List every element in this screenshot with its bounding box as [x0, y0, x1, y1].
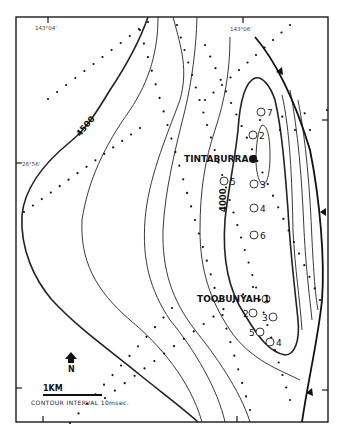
well-marker-t2[interactable] — [249, 309, 257, 317]
shotpoint-dot — [308, 276, 310, 278]
shotpoint-dot — [85, 166, 87, 168]
well-marker-5[interactable] — [220, 177, 228, 185]
shotpoint-dot — [303, 264, 305, 266]
well-marker-7[interactable] — [257, 108, 265, 116]
shotpoint-dot — [255, 54, 257, 56]
well-marker-t5[interactable] — [256, 328, 264, 336]
shotpoint-dot — [309, 129, 311, 131]
scale-bar-line — [43, 394, 102, 396]
shotpoint-dot — [267, 183, 269, 185]
shotpoint-dot — [166, 124, 168, 126]
shotpoint-dot — [229, 199, 231, 201]
shotpoint-dot — [278, 361, 280, 363]
well-label-4: 4 — [260, 204, 266, 214]
shotpoint-dot — [288, 229, 290, 231]
shotpoint-dot — [241, 125, 243, 127]
shotpoint-dot — [281, 116, 283, 118]
shotpoint-dot — [155, 83, 157, 85]
well-label-3: 3 — [260, 180, 266, 190]
well-marker-4[interactable] — [250, 204, 258, 212]
shotpoint-dot — [233, 355, 235, 357]
well-label-t4: 4 — [276, 338, 282, 348]
well-marker-2[interactable] — [249, 131, 257, 139]
shotpoint-dot — [246, 137, 248, 139]
shotpoint-dot — [209, 56, 211, 58]
shotpoint-dot — [225, 186, 227, 188]
shotpoint-dot — [183, 49, 185, 51]
well-group-toobunyah: TOOBUNYAH 1 2 3 5 4 — [197, 294, 282, 348]
well-marker-t3[interactable] — [269, 313, 277, 321]
shotpoint-dot — [206, 260, 208, 262]
shotpoint-dot — [266, 324, 268, 326]
shotpoint-dot — [137, 345, 139, 347]
shotpoint-dot — [147, 56, 149, 58]
well-label-5: 5 — [230, 177, 236, 187]
shotpoint-dot — [220, 79, 222, 81]
shotpoint-dot — [241, 382, 243, 384]
shotpoint-dot — [261, 171, 263, 173]
shotpoint-dot — [236, 224, 238, 226]
shotpoint-dot — [221, 84, 223, 86]
scale-label: 1KM — [43, 384, 63, 393]
contour-label-4500: 4500 — [74, 114, 97, 139]
shotpoint-dot — [74, 77, 76, 79]
shotpoint-dot — [212, 91, 214, 93]
well-marker-6[interactable] — [250, 231, 258, 239]
shotpoint-dot — [272, 39, 274, 41]
well-group-tintaburra: TINTABURRA 1 7 2 5 3 4 6 — [184, 108, 273, 241]
shotpoint-dot — [101, 56, 103, 58]
well-label-t3: 3 — [262, 313, 268, 323]
shotpoint-dot — [298, 253, 300, 255]
shotpoint-dot — [232, 211, 234, 213]
shotpoint-dot — [212, 316, 214, 318]
shotpoint-dot — [47, 98, 49, 100]
shotpoint-dot — [214, 287, 216, 289]
shotpoint-dot — [180, 36, 182, 38]
shotpoint-dot — [304, 112, 306, 114]
shotpoint-dot — [170, 138, 172, 140]
shotpoint-dot — [251, 148, 253, 150]
shotpoint-dot — [32, 204, 34, 206]
shotpoint-dot — [65, 84, 67, 86]
shotpoint-dot — [214, 149, 216, 151]
shotpoint-dot — [280, 31, 282, 33]
shotpoint-dot — [282, 218, 284, 220]
well-label-2: 2 — [259, 131, 265, 141]
shotpoint-dot — [143, 367, 145, 369]
shotpoint-dot — [77, 412, 79, 414]
shotpoint-dot — [225, 90, 227, 92]
contour — [163, 17, 250, 422]
shotpoint-dot — [319, 299, 321, 301]
shotpoint-dot — [214, 67, 216, 69]
shotpoint-dot — [281, 374, 283, 376]
shotpoint-dot — [145, 336, 147, 338]
shotpoint-dot — [279, 129, 281, 131]
shotpoint-dot — [202, 246, 204, 248]
shotpoint-dot — [121, 140, 123, 142]
shotpoint-dot — [139, 29, 141, 31]
well-marker-t4[interactable] — [266, 338, 274, 346]
shotpoint-dot — [176, 24, 178, 26]
contour-label-4000: 4000 — [218, 188, 228, 212]
latitude-label: 26°56' — [22, 161, 40, 167]
shotpoint-dot — [171, 307, 173, 309]
shotpoint-dot — [159, 97, 161, 99]
shotpoint-dot — [153, 360, 155, 362]
north-label: N — [68, 365, 75, 374]
shotpoint-dot — [314, 287, 316, 289]
shotpoint-dot — [206, 124, 208, 126]
shotpoint-dot — [326, 109, 328, 111]
shotpoint-dot — [229, 341, 231, 343]
shotpoint-dot — [202, 111, 204, 113]
contour-interval-label: CONTOUR INTERVAL 10msec. — [31, 399, 129, 406]
shotpoint-dot — [221, 314, 223, 316]
shotpoint-dot — [178, 165, 180, 167]
shotpoint-dot — [112, 146, 114, 148]
shotpoint-dot — [210, 273, 212, 275]
shotpoint-dot — [222, 308, 224, 310]
shotpoint-dot — [94, 159, 96, 161]
shotpoint-dot — [194, 219, 196, 221]
shotpoint-dot — [151, 70, 153, 72]
well-marker-3[interactable] — [250, 180, 258, 188]
shotpoint-dot — [183, 338, 185, 340]
